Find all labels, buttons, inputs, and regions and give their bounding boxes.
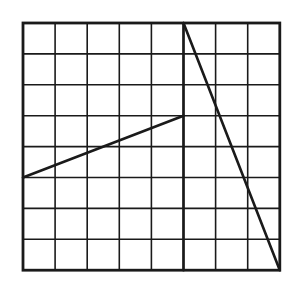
grid-diagram [0,0,298,297]
grid-lines [23,23,280,270]
